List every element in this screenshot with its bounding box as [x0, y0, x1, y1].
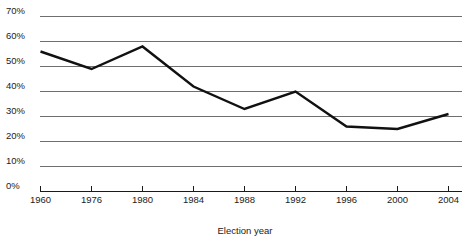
x-axis-title: Election year	[218, 225, 273, 236]
x-axis-label-2004: 2004	[438, 194, 459, 205]
x-axis-label-1996: 1996	[336, 194, 357, 205]
chart-background	[0, 0, 470, 246]
x-axis-label-1984: 1984	[183, 194, 204, 205]
y-axis-label-10: 10%	[6, 155, 26, 166]
line-chart: 70% 60% 50% 40% 30% 20% 10% 0% 1960 1976…	[0, 0, 470, 246]
x-axis-label-1976: 1976	[81, 194, 102, 205]
chart-container: 70% 60% 50% 40% 30% 20% 10% 0% 1960 1976…	[0, 0, 470, 246]
y-axis-label-70: 70%	[6, 5, 26, 16]
x-axis-label-2000: 2000	[387, 194, 408, 205]
y-axis-label-50: 50%	[6, 55, 26, 66]
y-axis-label-30: 30%	[6, 105, 26, 116]
x-axis-label-1988: 1988	[234, 194, 255, 205]
x-axis-label-1992: 1992	[285, 194, 306, 205]
x-axis-labels: 1960 1976 1980 1984 1988 1992 1996 2000 …	[30, 194, 459, 205]
y-axis-label-40: 40%	[6, 80, 26, 91]
y-axis-label-60: 60%	[6, 30, 26, 41]
x-axis-label-1980: 1980	[132, 194, 153, 205]
x-axis-label-1960: 1960	[30, 194, 51, 205]
y-axis-label-0: 0%	[6, 180, 20, 191]
y-axis-label-20: 20%	[6, 130, 26, 141]
